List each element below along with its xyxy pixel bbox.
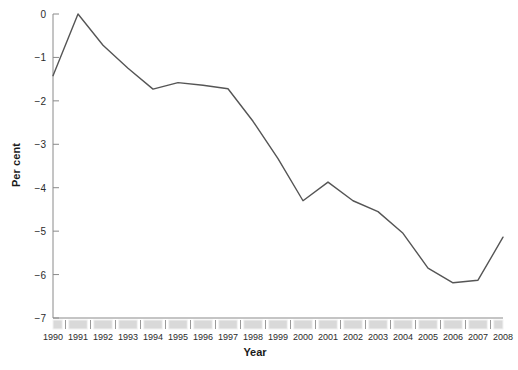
x-tick-block	[494, 320, 503, 329]
x-tick-block	[394, 320, 413, 329]
x-tick-block	[269, 320, 288, 329]
x-tick-block	[369, 320, 388, 329]
x-axis-tick-blocks	[53, 320, 503, 329]
x-tick-block	[169, 320, 188, 329]
x-tick-block	[219, 320, 238, 329]
x-tick-block	[119, 320, 138, 329]
x-tick-block	[244, 320, 263, 329]
x-tick-block	[53, 320, 62, 329]
series-line	[53, 14, 503, 283]
x-tick-block	[344, 320, 363, 329]
x-tick-block	[319, 320, 338, 329]
x-tick-block	[444, 320, 463, 329]
x-tick-block	[94, 320, 113, 329]
x-tick-block	[419, 320, 438, 329]
data-series	[53, 14, 503, 283]
x-tick-block	[469, 320, 488, 329]
x-tick-block	[194, 320, 213, 329]
x-tick-block	[69, 320, 88, 329]
x-tick-block	[144, 320, 163, 329]
x-axis-label: Year	[0, 346, 510, 358]
x-tick-block	[294, 320, 313, 329]
